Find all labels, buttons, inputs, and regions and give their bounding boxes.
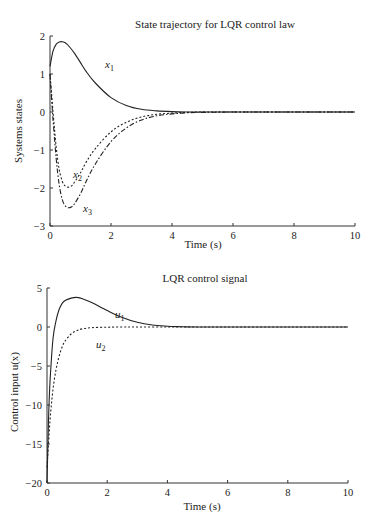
x-tick-label: 10 [350, 230, 361, 241]
series-u1-line [47, 297, 348, 483]
x-axis-label: Time (s) [183, 500, 221, 513]
x-tick-label: 0 [47, 230, 52, 241]
series-u2-label: u2 [96, 338, 106, 353]
state-trajectory-chart: State trajectory for LQR control law 024… [12, 18, 360, 251]
y-axis-label: Systems states [12, 99, 24, 163]
series-x1-label: x1 [104, 58, 114, 73]
series-x1-line [50, 42, 355, 112]
chart-title: LQR control signal [163, 272, 248, 284]
y-tick-label: −10 [26, 400, 42, 411]
y-tick-label: −20 [26, 478, 42, 489]
series-u1-label: u1 [115, 308, 125, 323]
y-axis-label: Control input u(x) [8, 352, 21, 432]
y-tick-label: 0 [37, 322, 42, 333]
y-tick-label: −3 [34, 221, 45, 232]
y-tick-label: −2 [34, 183, 45, 194]
y-tick-label: 1 [40, 69, 45, 80]
x-tick-label: 6 [225, 487, 230, 498]
series-x3-label: x3 [82, 202, 92, 217]
series-x2-label: x2 [72, 168, 82, 183]
axes: 0246810−20−15−10−505 [26, 283, 354, 498]
x-tick-label: 2 [105, 487, 110, 498]
y-tick-label: −1 [34, 145, 45, 156]
x-tick-label: 8 [285, 487, 290, 498]
series-x2-line [50, 74, 355, 187]
y-tick-label: 5 [37, 283, 42, 294]
x-tick-label: 8 [291, 230, 296, 241]
curves: x1x2x3 [50, 42, 355, 217]
x-tick-label: 6 [230, 230, 235, 241]
curves: u1u2 [47, 297, 348, 483]
series-x3-line [50, 74, 355, 208]
x-axis-label: Time (s) [184, 238, 222, 251]
y-tick-label: −5 [31, 361, 42, 372]
y-tick-label: 0 [40, 107, 45, 118]
series-u2-line [47, 327, 348, 467]
figure: State trajectory for LQR control law 024… [0, 0, 368, 532]
control-signal-chart: LQR control signal 0246810−20−15−10−505 … [8, 272, 353, 513]
y-tick-label: −15 [26, 439, 42, 450]
x-tick-label: 0 [44, 487, 49, 498]
x-tick-label: 2 [108, 230, 113, 241]
x-tick-label: 4 [165, 487, 171, 498]
chart-title: State trajectory for LQR control law [135, 18, 295, 30]
x-tick-label: 10 [343, 487, 354, 498]
x-tick-label: 4 [169, 230, 175, 241]
y-tick-label: 2 [40, 31, 45, 42]
